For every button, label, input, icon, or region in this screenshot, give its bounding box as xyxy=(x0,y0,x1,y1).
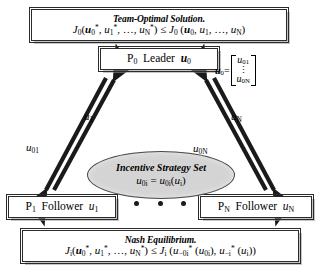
followers-ellipsis xyxy=(134,201,186,206)
incentive-set-equation: u0i = u0i(ui) xyxy=(136,174,185,188)
leader-control-vector: u0= u01 ⋮ u0N xyxy=(215,55,256,86)
arrow-label-u01: u01 xyxy=(26,141,39,155)
arrow-label-u1: u1 xyxy=(84,110,93,124)
incentive-set-title: Incentive Strategy Set xyxy=(116,162,206,173)
ellipsis-dot xyxy=(134,201,139,206)
nash-equilibrium-inequality: Ji(u0*, u1*, …, uN*) ≤ Ji (u−0i* (u0i), … xyxy=(65,245,256,258)
leader-box: P0 Leader u0 xyxy=(100,48,218,70)
team-optimal-inequality: J0(u0*, u1*, …, uN*) ≤ J0 (u0, u1, …, uN… xyxy=(73,24,245,37)
incentive-strategy-set-ellipse: Incentive Strategy Set u0i = u0i(ui) xyxy=(87,151,235,199)
leader-vector-matrix: u01 ⋮ u0N xyxy=(231,55,256,86)
follower1-label: P1 Follower u1 xyxy=(26,200,99,214)
arrow-label-uN: uN xyxy=(231,110,242,124)
bracket-right xyxy=(251,55,256,86)
followerN-label: PN Follower uN xyxy=(218,200,295,214)
follower1-box: P1 Follower u1 xyxy=(8,196,116,218)
diagram-canvas: leader ---- --> leader ---- --> Team-Opt… xyxy=(0,0,320,269)
ellipsis-dot xyxy=(181,201,186,206)
team-optimal-solution-box: Team-Optimal Solution. J0(u0*, u1*, …, u… xyxy=(31,9,287,41)
ellipsis-dot xyxy=(158,201,163,206)
vector-entry-last: u0N xyxy=(237,74,250,85)
leader-label: P0 Leader u0 xyxy=(127,52,191,66)
leader-vector-lhs: u0= xyxy=(215,65,230,76)
followerN-box: PN Follower uN xyxy=(200,196,312,218)
nash-equilibrium-box: Nash Equilibrium. Ji(u0*, u1*, …, uN*) ≤… xyxy=(22,230,299,262)
arrow-label-u0N: u0N xyxy=(193,142,208,156)
